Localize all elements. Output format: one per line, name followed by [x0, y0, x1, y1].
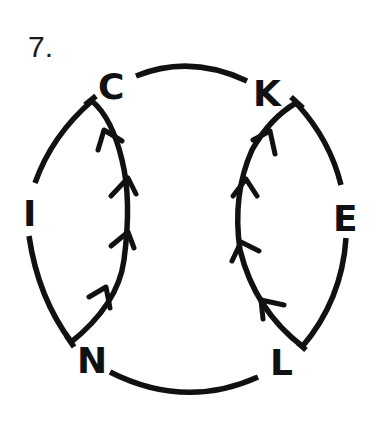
vertex-label-I: I	[23, 193, 36, 234]
vertex-label-N: N	[77, 340, 107, 381]
arrowhead-icon	[111, 232, 134, 248]
edge-E-L	[302, 238, 346, 347]
edge-C-I	[35, 100, 93, 183]
arrowhead-icon	[232, 242, 259, 261]
vertex-label-K: K	[253, 73, 282, 114]
vertex-label-C: C	[98, 66, 124, 107]
edge-C-K	[136, 66, 247, 81]
edge-N-L	[110, 372, 258, 392]
edge-I-N	[29, 236, 72, 343]
arrowhead-icon	[111, 178, 136, 196]
vertex-label-L: L	[270, 342, 293, 383]
vertex-tick-N	[66, 335, 74, 347]
arrowhead-icon	[233, 179, 257, 196]
graph-diagram: C K E L N I	[0, 0, 380, 423]
edge-K-E	[297, 104, 341, 185]
vertex-label-E: E	[333, 198, 358, 239]
